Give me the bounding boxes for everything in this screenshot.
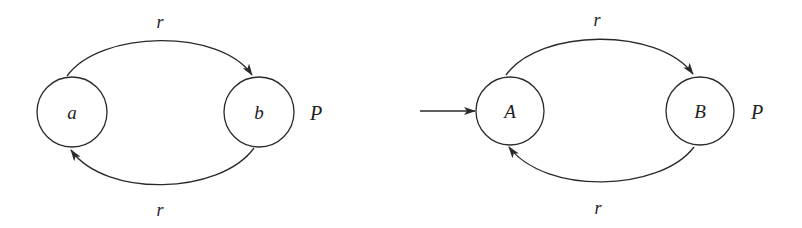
transition-A-to-B (506, 39, 693, 75)
state-B-label: B (694, 101, 706, 122)
state-b-label: b (254, 102, 264, 123)
state-b: b (224, 77, 294, 147)
transition-label-b-to-a: r (156, 200, 164, 220)
state-A-label: A (502, 101, 516, 122)
state-A: A (476, 77, 544, 145)
automaton-right: r r A B P (420, 10, 763, 218)
diagram-canvas: r r a b P r r A B (0, 0, 802, 228)
transition-label-B-to-A: r (594, 198, 602, 218)
transition-label-A-to-B: r (593, 10, 601, 30)
transition-b-to-a (71, 148, 254, 185)
transition-a-to-b (67, 41, 252, 76)
state-a-label: a (67, 102, 77, 123)
transition-label-a-to-b: r (156, 12, 164, 32)
automaton-label-right: P (750, 101, 763, 123)
state-B: B (666, 77, 734, 145)
automaton-left: r r a b P (37, 12, 322, 220)
transition-B-to-A (509, 147, 694, 182)
state-a: a (37, 77, 107, 147)
automaton-label-left: P (309, 102, 322, 124)
